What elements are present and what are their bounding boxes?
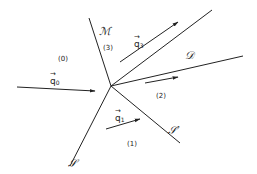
vector-arrow-icon: → [115,108,121,115]
q1-label: →q1 [115,114,125,123]
vector-arrow-icon: → [134,34,140,41]
region-1-label: (1) [127,141,137,148]
q0-subscript: 0 [56,79,60,86]
q2-arrow [145,77,178,83]
q1-subscript: 1 [121,116,125,123]
region-3-label: (3) [103,45,113,52]
slip-line-label: 𝒟 [185,50,194,61]
q3-subscript: 3 [140,42,144,49]
reflected-shock-label: 𝒮′ [168,125,180,136]
incident-shock-label: 𝒮 [68,158,77,169]
q3-label: →q3 [134,40,144,49]
q0-label: →q0 [50,77,60,86]
region-0-label: (0) [58,56,68,63]
vector-arrow-icon: → [50,71,56,78]
mach-stem-label: ℳ [99,26,111,37]
region-2-label: (2) [156,93,166,100]
incident-shock-line [70,86,111,166]
q0-arrow [17,87,95,91]
